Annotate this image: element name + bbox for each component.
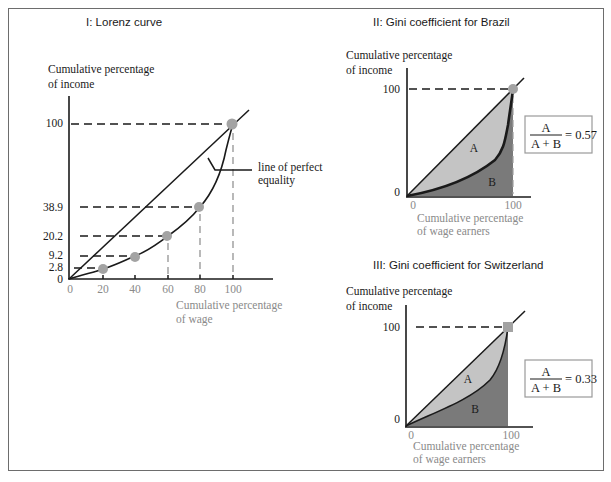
x-tick: 100 <box>504 199 522 211</box>
x-tick: 60 <box>162 283 174 295</box>
y-tick: 38.9 <box>43 201 63 213</box>
y-axis-label: Cumulative percentage <box>48 63 154 76</box>
formula-numerator: A <box>541 365 550 379</box>
gini-formula-box: A A + B = 0.33 <box>525 360 597 397</box>
x-tick: 40 <box>129 283 141 295</box>
y-axis-label: Cumulative percentage <box>346 49 452 62</box>
formula-numerator: A <box>541 121 550 135</box>
x-axis-label: of wage earners <box>417 225 490 238</box>
data-point <box>162 231 172 241</box>
data-point <box>98 264 108 274</box>
y-tick: 0 <box>57 273 63 285</box>
data-point <box>194 202 204 212</box>
y-tick: 100 <box>46 117 64 129</box>
panel-title: II: Gini coefficient for Brazil <box>373 16 510 28</box>
formula-denominator: A + B <box>531 137 561 151</box>
gini-value: = 0.33 <box>565 372 597 386</box>
y-tick: 100 <box>383 83 401 95</box>
y-tick: 0 <box>394 186 400 198</box>
formula-denominator: A + B <box>531 381 561 395</box>
y-tick: 20.2 <box>43 230 63 242</box>
x-axis-label: Cumulative percentage <box>417 212 523 225</box>
figure-canvas: I: Lorenz curve Cumulative percentage of… <box>0 0 611 482</box>
x-tick: 0 <box>67 283 73 295</box>
y-tick: 100 <box>383 321 401 333</box>
area-b-label: B <box>488 176 496 188</box>
data-point <box>227 119 238 130</box>
area-a-label: A <box>464 373 473 385</box>
y-axis-label: Cumulative percentage <box>346 285 452 298</box>
x-tick: 100 <box>224 283 242 295</box>
data-point <box>508 84 518 94</box>
y-axis-label: of income <box>346 300 392 312</box>
panel-gini-switzerland: III: Gini coefficient for Switzerland Cu… <box>346 259 597 466</box>
panel-title: I: Lorenz curve <box>86 16 162 28</box>
panel-lorenz-curve: I: Lorenz curve Cumulative percentage of… <box>43 16 323 326</box>
x-axis-label: Cumulative percentage <box>176 299 282 312</box>
panel-title: III: Gini coefficient for Switzerland <box>373 259 543 271</box>
data-point <box>503 322 513 332</box>
line-of-perfect-equality <box>69 110 249 279</box>
panel-gini-brazil: II: Gini coefficient for Brazil Cumulati… <box>346 16 597 238</box>
data-point <box>130 252 140 262</box>
x-tick: 20 <box>97 283 109 295</box>
y-tick: 9.2 <box>49 249 64 261</box>
area-b-label: B <box>471 403 479 415</box>
gini-formula-box: A A + B = 0.57 <box>525 116 597 153</box>
gini-value: = 0.57 <box>565 128 597 142</box>
y-tick: 2.8 <box>49 261 64 273</box>
annotation-label: equality <box>258 174 295 187</box>
y-axis-label: of income <box>48 78 94 90</box>
x-tick: 80 <box>194 283 206 295</box>
x-axis-label: of wage <box>176 313 213 326</box>
x-tick: 0 <box>410 199 416 211</box>
annotation-label: line of perfect <box>258 161 323 174</box>
y-tick: 0 <box>394 413 400 425</box>
x-axis-label: of wage earners <box>413 453 486 466</box>
x-axis-label: Cumulative percentage <box>413 440 519 453</box>
annotation-pointer <box>208 158 252 170</box>
area-a-label: A <box>470 142 479 154</box>
y-axis-label: of income <box>346 64 392 76</box>
